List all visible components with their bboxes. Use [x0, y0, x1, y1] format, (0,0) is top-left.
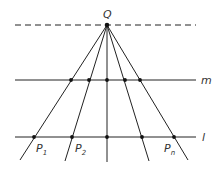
- point-l-3: [105, 135, 109, 139]
- rays: [20, 25, 188, 162]
- apex-point-q: [105, 23, 110, 28]
- point-l-4: [140, 135, 144, 139]
- point-m-1: [69, 78, 73, 82]
- point-l-5: [172, 135, 176, 139]
- label-m: m: [201, 74, 212, 87]
- point-m-3: [105, 78, 109, 82]
- projection-diagram: Q m l P1 P2 Pn: [0, 0, 222, 172]
- point-l-1: [32, 135, 36, 139]
- label-q: Q: [103, 8, 112, 21]
- ray-4: [107, 25, 149, 161]
- point-m-2: [87, 78, 91, 82]
- point-m-5: [138, 78, 142, 82]
- point-m-4: [123, 78, 127, 82]
- label-p2: P2: [75, 142, 87, 157]
- ray-5: [107, 25, 188, 160]
- label-pn: Pn: [164, 142, 175, 157]
- label-p1: P1: [36, 142, 47, 157]
- ray-2: [65, 25, 107, 161]
- label-l: l: [202, 131, 205, 144]
- ray-1: [20, 25, 107, 160]
- point-l-2: [70, 135, 74, 139]
